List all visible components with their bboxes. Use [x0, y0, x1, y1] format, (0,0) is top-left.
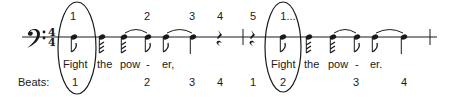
count-label: 5: [250, 10, 256, 22]
lyric-syllable: the: [304, 58, 319, 70]
lyric-syllable: er.: [370, 58, 382, 70]
lyric-syllable: er,: [162, 58, 174, 70]
beat-number: 1: [250, 76, 256, 88]
thirty-second-note: [98, 34, 106, 53]
lyric-syllable: Fight: [63, 58, 87, 70]
tie: [376, 30, 403, 34]
quarter-note: [400, 34, 408, 54]
beat-number: 2: [280, 76, 286, 88]
beat-number: 3: [353, 76, 359, 88]
lyric-syllable: Fight: [271, 58, 295, 70]
svg-text:4: 4: [48, 36, 56, 49]
beat-number: 2: [144, 76, 150, 88]
tie: [334, 30, 356, 34]
eighth-note: [279, 34, 287, 52]
thirty-second-note: [120, 34, 128, 53]
beat-number: 4: [217, 76, 223, 88]
eighth-note: [371, 34, 379, 52]
eighth-note: [353, 34, 361, 52]
beat-number: 1: [72, 76, 78, 88]
music-notation-figure: 4 4: [0, 0, 459, 97]
thirty-second-note: [329, 34, 337, 53]
staff-graphic: 4 4: [0, 0, 459, 97]
tie: [125, 30, 147, 34]
time-signature: 4 4: [48, 26, 56, 49]
count-label: 1: [70, 10, 76, 22]
quarter-rest-icon: [217, 30, 222, 46]
beat-number: 3: [189, 76, 195, 88]
eighth-note: [162, 34, 170, 52]
lyric-syllable: -: [146, 58, 150, 70]
thirty-second-note: [305, 34, 313, 53]
count-label: 1...: [280, 10, 295, 22]
lyric-syllable: pow: [328, 58, 348, 70]
count-label: 2: [144, 10, 150, 22]
count-label: 4: [217, 10, 223, 22]
eighth-note: [144, 34, 152, 52]
lyric-syllable: -: [355, 58, 359, 70]
lyric-syllable: the: [97, 58, 112, 70]
count-label: 3: [189, 10, 195, 22]
beat-number: 4: [401, 76, 407, 88]
quarter-rest-icon: [250, 30, 255, 46]
lyric-syllable: pow: [120, 58, 140, 70]
quarter-note: [189, 34, 197, 54]
tie: [167, 30, 192, 34]
eighth-note: [70, 34, 78, 52]
bass-clef-icon: [27, 29, 45, 48]
beats-label: Beats:: [18, 76, 49, 88]
